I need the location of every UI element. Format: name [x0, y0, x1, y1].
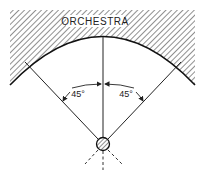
orchestra-label: ORCHESTRA [61, 16, 128, 27]
angle-arc-left [72, 84, 101, 88]
sight-line-left [25, 62, 98, 139]
angle-arc-right [105, 84, 134, 88]
angle-arc-right-lower [136, 92, 143, 101]
dashed-line-right [108, 150, 122, 164]
dashed-line-left [85, 150, 98, 164]
angle-left-label: 45° [71, 89, 85, 99]
listener-icon [97, 138, 110, 151]
sight-line-right [108, 62, 181, 139]
angle-right-label: 45° [119, 89, 133, 99]
orchestra-diagram: ORCHESTRA 45° 45° [0, 0, 205, 174]
angle-arc-left-lower [63, 92, 70, 101]
